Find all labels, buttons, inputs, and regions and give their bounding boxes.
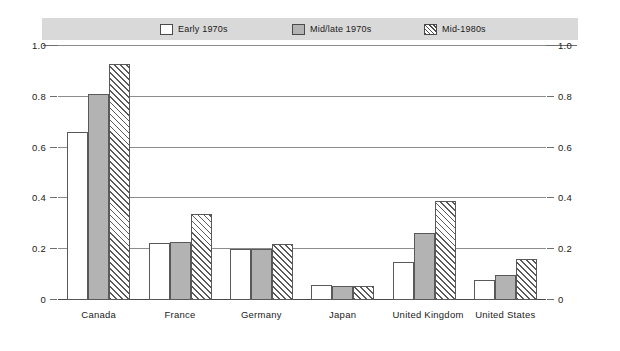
- y-axis-tick-right: [547, 197, 554, 198]
- bar: [311, 285, 332, 300]
- y-axis-tick-left: [50, 147, 57, 148]
- y-axis-label-left: 0.6: [16, 143, 46, 153]
- white-square-icon: [160, 24, 173, 35]
- bar: [149, 243, 170, 300]
- y-axis-tick-right: [547, 248, 554, 249]
- legend-item-early-1970s: Early 1970s: [160, 22, 228, 36]
- y-axis-tick-left: [50, 248, 57, 249]
- y-axis-label-right: 1.0: [558, 41, 588, 51]
- y-axis-tick-right: [547, 45, 554, 46]
- bar-chart-figure: Early 1970s Mid/late 1970s Mid-1980s 000…: [0, 0, 620, 351]
- y-axis-label-right: 0: [558, 295, 588, 305]
- x-axis-category-label: France: [149, 309, 212, 320]
- x-axis-category-label: Germany: [230, 309, 293, 320]
- gray-square-icon: [292, 24, 305, 35]
- y-axis-tick-left: [50, 299, 57, 300]
- x-axis-line: [58, 299, 546, 300]
- bar: [414, 233, 435, 300]
- bar-group: France: [149, 46, 212, 300]
- x-axis-category-label: Canada: [67, 309, 130, 320]
- gridline: [58, 248, 546, 249]
- bar: [495, 275, 516, 300]
- legend-item-mid-late-1970s: Mid/late 1970s: [292, 22, 371, 36]
- plot-area: 000.20.20.40.40.60.60.80.81.01.0CanadaFr…: [58, 46, 546, 300]
- bar-group: Canada: [67, 46, 130, 300]
- y-axis-label-right: 0.4: [558, 193, 588, 203]
- y-axis-label-left: 0.8: [16, 92, 46, 102]
- gridline: [58, 197, 546, 198]
- legend-item-mid-1980s: Mid-1980s: [424, 22, 486, 36]
- y-axis-tick-left: [50, 96, 57, 97]
- y-axis-label-left: 0.2: [16, 244, 46, 254]
- y-axis-label-right: 0.8: [558, 92, 588, 102]
- y-axis-label-right: 0.6: [558, 143, 588, 153]
- bar: [67, 132, 88, 300]
- bar-group: United States: [474, 46, 537, 300]
- y-axis-tick-right: [547, 299, 554, 300]
- gridline: [58, 45, 546, 46]
- bar: [251, 249, 272, 300]
- bar: [88, 94, 109, 300]
- legend-label: Mid/late 1970s: [310, 24, 371, 35]
- chart-legend: Early 1970s Mid/late 1970s Mid-1980s: [42, 18, 578, 40]
- legend-label: Mid-1980s: [442, 24, 486, 35]
- bar: [332, 286, 353, 300]
- y-axis-label-left: 1.0: [16, 41, 46, 51]
- y-axis-tick-left: [50, 45, 57, 46]
- bar: [474, 280, 495, 300]
- y-axis-label-right: 0.2: [558, 244, 588, 254]
- legend-label: Early 1970s: [178, 24, 228, 35]
- y-axis-label-left: 0.4: [16, 193, 46, 203]
- bar: [272, 244, 293, 300]
- bar: [109, 64, 130, 300]
- y-axis-tick-right: [547, 96, 554, 97]
- bar: [516, 259, 537, 300]
- x-axis-category-label: United States: [474, 309, 537, 320]
- x-axis-category-label: Japan: [311, 309, 374, 320]
- bar-group: United Kingdom: [393, 46, 456, 300]
- y-axis-tick-right: [547, 147, 554, 148]
- bar: [435, 201, 456, 300]
- bar: [353, 286, 374, 300]
- gridline: [58, 96, 546, 97]
- bar: [393, 262, 414, 300]
- bar-group: Germany: [230, 46, 293, 300]
- x-axis-category-label: United Kingdom: [393, 309, 456, 320]
- gridline: [58, 147, 546, 148]
- y-axis-label-left: 0: [16, 295, 46, 305]
- hatched-square-icon: [424, 24, 437, 35]
- bar-group: Japan: [311, 46, 374, 300]
- bar: [170, 242, 191, 300]
- y-axis-tick-left: [50, 197, 57, 198]
- bar: [230, 249, 251, 300]
- bar: [191, 214, 212, 300]
